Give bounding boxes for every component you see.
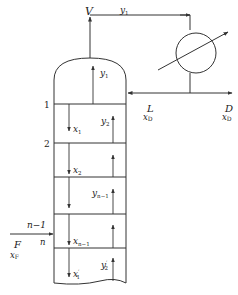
plate-number-n-1: n−1	[27, 220, 46, 230]
plates	[54, 104, 126, 248]
plate-number-n: n	[40, 237, 45, 247]
column-shell	[54, 58, 126, 284]
label-xF: xF	[10, 250, 19, 260]
label-x1-prime: x′1	[73, 268, 80, 280]
label-xn-1: xn−1	[73, 236, 90, 247]
label-x2: x2	[73, 165, 82, 176]
distillation-column-diagram: V y1 L xD D xD 1 2 n−1 n F xF y1 x1 y2 x…	[0, 0, 238, 295]
plate-number-2: 2	[44, 139, 50, 149]
label-y2: y2	[100, 116, 110, 127]
plate-number-1: 1	[44, 100, 50, 110]
label-y2-prime: y′2	[100, 259, 108, 271]
label-yn-1: yn−1	[91, 188, 109, 199]
condenser	[158, 32, 228, 93]
label-y1-overhead: y1	[119, 5, 129, 16]
condenser-icon	[176, 33, 216, 73]
label-y1: y1	[99, 68, 109, 79]
overhead-vapor-line	[90, 15, 190, 58]
label-x1: x1	[73, 124, 82, 135]
label-V: V	[85, 5, 94, 18]
coolant-arrow	[158, 32, 228, 70]
label-F: F	[13, 239, 22, 250]
